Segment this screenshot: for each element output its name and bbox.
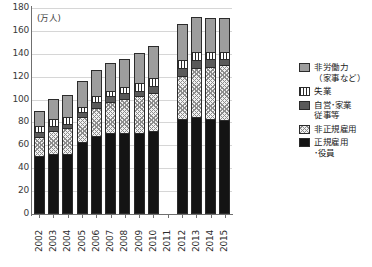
legend-item-0[interactable]: 非労働力（家事など） [299, 62, 372, 83]
bar-segment [105, 91, 116, 98]
y-axis-tick-label: 140 [1, 49, 29, 58]
legend-item-3[interactable]: 非正規雇用 [299, 124, 372, 135]
bar-2004[interactable] [62, 8, 73, 214]
bar-segment [91, 108, 102, 138]
x-axis-tick-label: 2005 [77, 221, 88, 261]
bar-segment [205, 18, 216, 52]
stacked-bar-chart: (万人) 180160140120100806040200 2002200320… [0, 0, 372, 267]
bar-segment [148, 93, 159, 132]
bar-2012[interactable] [177, 8, 188, 214]
bar-2005[interactable] [77, 8, 88, 214]
x-axis-tick-label: 2002 [34, 221, 45, 261]
bar-segment [105, 102, 116, 134]
x-axis-tick-label: 2012 [177, 221, 188, 261]
legend-item-label: 非労働力（家事など） [314, 62, 366, 83]
bar-segment [77, 117, 88, 143]
x-axis-tick-mark [225, 214, 226, 218]
x-axis-tick-mark [182, 214, 183, 218]
bar-segment [205, 67, 216, 121]
y-axis-tick-label: 100 [1, 95, 29, 104]
bar-segment [177, 24, 188, 60]
bar-segment [48, 99, 59, 121]
bar-segment [219, 59, 230, 67]
bar-segment [148, 78, 159, 87]
y-axis-tick-labels: 180160140120100806040200 [0, 0, 29, 220]
x-axis-tick-label: 2009 [134, 221, 145, 261]
bar-segment [134, 83, 145, 92]
legend-item-1[interactable]: 失業 [299, 86, 372, 97]
bar-segment [119, 59, 130, 89]
bar-segment [191, 52, 202, 61]
bar-segment [91, 102, 102, 109]
bar-segment [191, 117, 202, 214]
bar-2015[interactable] [219, 8, 230, 214]
legend-swatch-icon [299, 138, 310, 147]
bar-segment [177, 76, 188, 120]
bar-2007[interactable] [105, 8, 116, 214]
bar-2008[interactable] [119, 8, 130, 214]
bar-2002[interactable] [34, 8, 45, 214]
bar-segment [219, 65, 230, 121]
y-axis-tick-label: 80 [1, 117, 29, 126]
bar-segment [191, 68, 202, 118]
bar-segment [34, 126, 45, 133]
bar-segment [134, 53, 145, 84]
x-axis-tick-label: 2007 [105, 221, 116, 261]
legend-swatch-icon [299, 125, 310, 134]
legend-swatch-icon [299, 63, 310, 72]
bar-segment [48, 119, 59, 127]
bar-2003[interactable] [48, 8, 59, 214]
x-axis-line [31, 214, 233, 215]
plot-area [32, 8, 232, 214]
bar-2009[interactable] [134, 8, 145, 214]
bar-segment [77, 107, 88, 114]
legend-item-4[interactable]: 正規雇用･役員 [299, 137, 372, 158]
x-axis-tick-mark [82, 214, 83, 218]
bar-segment [105, 133, 116, 214]
x-axis-tick-label: 2008 [119, 221, 130, 261]
bar-2010[interactable] [148, 8, 159, 214]
y-axis-tick-label: 0 [1, 209, 29, 218]
bar-segment [191, 17, 202, 52]
bar-segment [34, 137, 45, 156]
bar-segment [48, 154, 59, 215]
bar-segment [62, 117, 73, 125]
bar-segment [119, 133, 130, 214]
legend-item-label: 正規雇用･役員 [314, 137, 348, 158]
bar-segment [34, 111, 45, 127]
x-axis-tick-label: 2006 [91, 221, 102, 261]
bar-segment [62, 128, 73, 154]
bar-2013[interactable] [191, 8, 202, 214]
bar-segment [62, 154, 73, 215]
x-axis-tick-label: 2015 [219, 221, 230, 261]
bar-segment [134, 133, 145, 214]
bar-2006[interactable] [91, 8, 102, 214]
x-axis-tick-mark [196, 214, 197, 218]
bar-segment [91, 70, 102, 97]
y-axis-tick-label: 60 [1, 140, 29, 149]
x-axis-tick-mark [53, 214, 54, 218]
x-axis-tick-mark [139, 214, 140, 218]
x-axis-tick-mark [211, 214, 212, 218]
bar-segment [191, 60, 202, 69]
bar-segment [219, 120, 230, 214]
legend-item-2[interactable]: 自営･家業従事等 [299, 100, 372, 121]
bar-segment [148, 131, 159, 214]
y-axis-tick-label: 120 [1, 72, 29, 81]
bar-segment [219, 18, 230, 52]
x-axis-tick-mark [39, 214, 40, 218]
x-axis-tick-mark [168, 214, 169, 218]
bar-segment [91, 96, 102, 103]
bar-segment [48, 131, 59, 155]
bar-2014[interactable] [205, 8, 216, 214]
bar-segment [34, 132, 45, 139]
x-axis-tick-mark [96, 214, 97, 218]
x-axis-tick-label: 2010 [148, 221, 159, 261]
bar-segment [91, 136, 102, 214]
y-axis-tick-label: 40 [1, 163, 29, 172]
bar-segment [105, 63, 116, 91]
x-axis-tick-label: 2003 [48, 221, 59, 261]
bar-segment [62, 95, 73, 118]
bar-segment [205, 119, 216, 214]
x-axis-tick-mark [125, 214, 126, 218]
